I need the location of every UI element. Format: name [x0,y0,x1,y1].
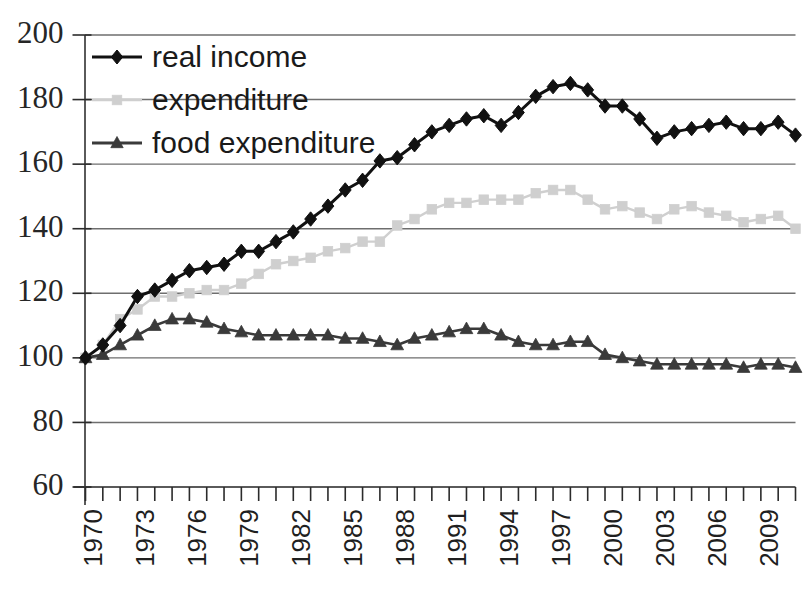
x-tick-label: 2006 [702,509,732,567]
data-point-marker [686,121,698,135]
data-point-marker [616,99,628,113]
y-tick-label: 200 [17,15,64,50]
data-point-marker [305,212,317,226]
y-tick-label: 120 [17,273,64,308]
data-point-marker [427,205,437,215]
data-point-marker [218,257,230,271]
data-point-marker [772,115,784,129]
data-point-marker [670,205,680,215]
y-tick-label: 140 [17,209,64,244]
data-point-marker [391,150,403,164]
x-tick-label: 1997 [546,509,576,567]
data-point-marker [166,273,178,287]
data-point-marker [237,279,247,289]
data-point-marker [721,211,731,221]
data-point-marker [306,253,316,263]
data-point-marker [564,76,576,90]
series-food-expenditure [79,312,802,372]
data-point-marker [201,260,213,274]
data-point-marker [668,125,680,139]
data-point-marker [599,348,612,360]
x-tick-label: 1985 [338,509,368,567]
data-point-marker [443,118,455,132]
data-point-marker [183,263,195,277]
data-point-marker [461,112,473,126]
data-point-marker [133,305,143,315]
x-tick-label: 1994 [494,509,524,567]
data-point-marker [358,237,368,247]
data-point-marker [756,214,766,224]
data-point-marker [479,195,489,205]
data-point-marker [114,338,127,350]
y-tick-label: 60 [33,467,64,502]
data-point-marker [495,118,507,132]
data-point-marker [323,247,333,257]
legend-label: real income [152,40,307,73]
y-axis-tick-labels: 6080100120140160180200 [17,15,64,502]
data-point-marker [791,224,801,234]
data-point-marker [635,208,645,218]
data-point-marker [131,329,144,341]
data-point-marker [548,185,558,195]
data-point-marker [392,221,402,231]
data-point-marker [755,121,767,135]
data-point-marker [444,198,454,208]
data-point-marker [289,256,299,266]
data-point-marker [254,269,264,279]
data-point-marker [253,244,265,258]
data-point-marker [773,211,783,221]
x-tick-label: 2003 [650,509,680,567]
data-point-marker [185,289,195,299]
data-point-marker [270,234,282,248]
data-point-marker [687,201,697,211]
data-point-marker [703,118,715,132]
data-point-marker [738,121,750,135]
data-point-marker [202,285,212,295]
x-tick-label: 1991 [442,509,472,567]
data-point-marker [704,208,714,218]
x-tick-label: 1988 [390,509,420,567]
data-point-marker [235,244,247,258]
x-tick-label: 1973 [130,509,160,567]
data-point-marker [271,259,281,269]
x-tick-label: 1970 [78,509,108,567]
data-point-marker [287,225,299,239]
legend-marker-diamond [111,50,122,64]
data-point-marker [531,188,541,198]
legend-label: food expenditure [152,126,376,159]
data-point-marker [375,237,385,247]
y-tick-label: 160 [17,144,64,179]
x-axis-tick-labels: 1970197319761979198219851988199119941997… [78,509,783,567]
data-point-marker [478,109,490,123]
data-point-marker [426,125,438,139]
data-point-marker [566,185,576,195]
data-point-marker [618,201,628,211]
data-point-marker [514,195,524,205]
data-point-marker [496,195,506,205]
data-point-marker [739,217,749,227]
data-point-marker [652,214,662,224]
data-point-marker [547,79,559,93]
data-point-marker [462,198,472,208]
data-point-marker [583,195,593,205]
y-tick-label: 100 [17,338,64,373]
line-chart: 6080100120140160180200 19701973197619791… [0,0,808,598]
x-tick-label: 1979 [234,509,264,567]
data-point-marker [219,285,229,295]
y-axis-ticks [73,35,92,487]
legend-marker-square [112,95,122,105]
data-point-marker [167,292,177,302]
x-tick-label: 2000 [598,509,628,567]
y-tick-label: 80 [33,403,64,438]
x-axis-ticks [86,487,796,501]
chart-container: 6080100120140160180200 19701973197619791… [0,0,808,598]
data-point-marker [410,214,420,224]
data-point-marker [409,138,421,152]
data-point-marker [340,243,350,253]
legend-label: expenditure [152,83,309,116]
y-tick-label: 180 [17,80,64,115]
x-tick-label: 1982 [286,509,316,567]
data-point-marker [790,128,802,142]
x-tick-label: 1976 [182,509,212,567]
x-tick-label: 2009 [754,509,784,567]
